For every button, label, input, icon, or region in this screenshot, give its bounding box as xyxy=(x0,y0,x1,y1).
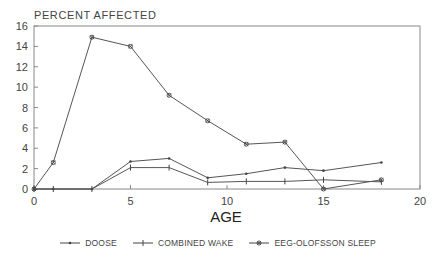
svg-text:4: 4 xyxy=(22,142,28,154)
svg-text:6: 6 xyxy=(22,122,28,134)
plus-marker-icon xyxy=(133,239,153,247)
svg-text:10: 10 xyxy=(221,195,233,207)
svg-text:8: 8 xyxy=(22,102,28,114)
svg-text:10: 10 xyxy=(16,81,28,93)
x-axis-ticks: 05101520 xyxy=(31,185,426,207)
svg-text:2: 2 xyxy=(22,163,28,175)
svg-text:12: 12 xyxy=(16,61,28,73)
svg-text:20: 20 xyxy=(414,195,426,207)
legend-item-eeg-olofsson-sleep: EEG-OLOFSSON SLEEP xyxy=(249,238,375,248)
legend-label: DOOSE xyxy=(85,238,117,248)
y-axis-ticks: 0246810121416 xyxy=(16,20,38,195)
svg-text:5: 5 xyxy=(127,195,133,207)
legend-item-doose: DOOSE xyxy=(60,238,117,248)
legend-label: EEG-OLOFSSON SLEEP xyxy=(274,238,375,248)
svg-text:0: 0 xyxy=(31,195,37,207)
star-marker-icon xyxy=(249,239,269,247)
dot-marker-icon xyxy=(60,240,80,246)
plot-frame xyxy=(34,26,420,189)
svg-text:16: 16 xyxy=(16,20,28,32)
legend-label: COMBINED WAKE xyxy=(158,238,234,248)
svg-text:0: 0 xyxy=(22,183,28,195)
series-lines xyxy=(32,35,383,192)
y-axis-title: PERCENT AFFECTED xyxy=(34,9,156,21)
x-axis-title: AGE xyxy=(210,208,242,225)
legend-item-combined-wake: COMBINED WAKE xyxy=(133,238,234,248)
legend: DOOSE COMBINED WAKE EEG-OLOFSSON SLEEP xyxy=(0,236,436,250)
line-chart: PERCENT AFFECTED 0246810121416 05101520 … xyxy=(0,0,436,259)
svg-text:15: 15 xyxy=(317,195,329,207)
svg-text:14: 14 xyxy=(16,40,28,52)
